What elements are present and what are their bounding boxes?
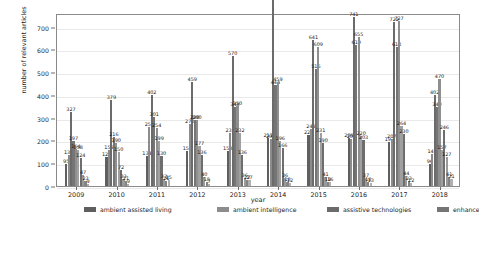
bar-value-label: 190 xyxy=(318,138,327,143)
y-tick-mark xyxy=(51,73,55,74)
plot-area: 9513832719716415812447239129159379216190… xyxy=(56,14,460,187)
bar-value-label: 290 xyxy=(192,115,201,120)
bar-value-label: 327 xyxy=(66,107,75,112)
bar-value-label: 190 xyxy=(112,138,121,143)
bar-value-label: 570 xyxy=(228,51,237,56)
bar-value-label: 12 xyxy=(408,178,414,183)
bar-value-label: 402 xyxy=(147,90,156,95)
bar-value-label: 9 xyxy=(86,179,89,184)
bar-value-label: 9 xyxy=(127,179,130,184)
bar-value-label: 31 xyxy=(448,174,454,179)
bar-value-label: 127 xyxy=(442,152,451,157)
bar-value-label: 231 xyxy=(316,129,325,134)
y-tick-mark xyxy=(51,50,55,51)
bar-value-label: 459 xyxy=(188,77,197,82)
y-tick-label: 0 xyxy=(45,184,49,191)
legend-item[interactable]: ambient intelligence xyxy=(217,204,327,215)
legend-label: enhanced living environment xyxy=(453,206,479,213)
y-tick-mark xyxy=(51,118,55,119)
legend-swatch xyxy=(84,207,96,213)
bar-value-label: 130 xyxy=(157,152,166,157)
legend-label: ambient intelligence xyxy=(233,206,296,213)
y-tick-mark xyxy=(51,27,55,28)
bar: 16 xyxy=(329,182,331,186)
y-tick-mark xyxy=(51,164,55,165)
bar-value-label: 27 xyxy=(246,175,252,180)
bar-value-label: 379 xyxy=(107,95,116,100)
y-tick-label: 100 xyxy=(37,161,49,168)
bar-value-label: 13 xyxy=(368,178,374,183)
bar: 25 xyxy=(168,180,170,186)
bar-value-label: 196 xyxy=(276,136,285,141)
bar: 12 xyxy=(410,183,412,186)
bar: 7 xyxy=(208,184,210,186)
bar-value-label: 136 xyxy=(238,150,247,155)
x-tick-mark xyxy=(319,187,320,190)
bar-value-label: 459 xyxy=(273,77,282,82)
y-axis-label: number of relevant articles xyxy=(20,0,28,126)
bar: 13 xyxy=(370,183,372,186)
x-tick-mark xyxy=(238,187,239,190)
chart-figure: 0100200300400500600700 number of relevan… xyxy=(0,0,479,255)
y-tick-mark xyxy=(51,187,55,188)
x-tick-mark xyxy=(117,187,118,190)
legend-label: ambient assisted living xyxy=(100,206,172,213)
legend-item[interactable]: assistive technologies xyxy=(327,204,437,215)
bar-value-label: 655 xyxy=(354,32,363,37)
x-tick-mark xyxy=(278,187,279,190)
bar-value-label: 641 xyxy=(309,35,318,40)
x-axis-label: year xyxy=(56,196,460,204)
bar-value-label: 264 xyxy=(397,121,406,126)
bar-value-label: 158 xyxy=(74,145,83,150)
bar-value-label: 177 xyxy=(195,141,204,146)
bar: 12 xyxy=(289,183,291,186)
bar-value-label: 301 xyxy=(150,113,159,118)
bar: 31 xyxy=(450,179,452,186)
legend-item[interactable]: enhanced living environment xyxy=(437,204,479,215)
bar-value-label: 254 xyxy=(152,123,161,128)
bar: 9 xyxy=(87,184,89,186)
bar-value-label: 7 xyxy=(208,180,211,185)
y-tick-mark xyxy=(51,141,55,142)
x-tick-mark xyxy=(399,187,400,190)
legend-label: assistive technologies xyxy=(343,206,411,213)
y-tick-label: 400 xyxy=(37,92,49,99)
x-tick-mark xyxy=(76,187,77,190)
y-axis: 0100200300400500600700 xyxy=(0,14,56,187)
legend-swatch xyxy=(217,207,229,213)
bar-value-label: 741 xyxy=(349,12,358,17)
y-tick-label: 600 xyxy=(37,47,49,54)
y-tick-label: 700 xyxy=(37,24,49,31)
legend-swatch xyxy=(327,207,339,213)
chart-legend: ambient assisted livingambient intellige… xyxy=(84,204,444,252)
bar-value-label: 727 xyxy=(394,16,403,21)
bar-value-label: 203 xyxy=(359,135,368,140)
x-tick-mark xyxy=(157,187,158,190)
y-tick-label: 200 xyxy=(37,138,49,145)
legend-swatch xyxy=(437,207,449,213)
y-tick-label: 500 xyxy=(37,70,49,77)
legend-item[interactable]: ambient assisted living xyxy=(84,204,217,215)
bar-value-label: 470 xyxy=(435,74,444,79)
bar-value-label: 12 xyxy=(287,178,293,183)
bar-value-label: 150 xyxy=(114,147,123,152)
bar-value-label: 16 xyxy=(327,177,333,182)
bar-value-label: 199 xyxy=(154,136,163,141)
y-tick-label: 300 xyxy=(37,115,49,122)
bar-value-label: 166 xyxy=(278,143,287,148)
bar-value-label: 350 xyxy=(233,101,242,106)
x-tick-mark xyxy=(359,187,360,190)
x-tick-mark xyxy=(440,187,441,190)
bar-value-label: 232 xyxy=(235,128,244,133)
x-tick-mark xyxy=(197,187,198,190)
bar-value-label: 246 xyxy=(440,125,449,130)
bar-value-label: 25 xyxy=(166,175,172,180)
bar: 9 xyxy=(127,184,129,186)
bar-value-label: 124 xyxy=(76,153,85,158)
bar-value-label: 72 xyxy=(118,165,124,170)
bar-value-label: 609 xyxy=(314,42,323,47)
bar: 27 xyxy=(248,180,250,186)
bar-value-label: 197 xyxy=(69,136,78,141)
y-tick-mark xyxy=(51,95,55,96)
bar-value-label: 230 xyxy=(399,129,408,134)
